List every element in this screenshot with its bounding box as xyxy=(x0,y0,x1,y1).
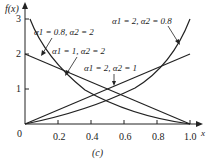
x-tick-label: 0.4 xyxy=(86,131,99,142)
annotation-label: α1 = 0.8, α2 = 2 xyxy=(34,27,94,37)
annotation-arrow xyxy=(168,26,178,42)
x-tick-label: 0.8 xyxy=(152,131,165,142)
y-tick-label: 1 xyxy=(16,83,21,94)
annotation-label: α1 = 1, α2 = 2 xyxy=(52,46,106,56)
panel-label: (c) xyxy=(92,147,104,159)
annotation-label: α1 = 2, α2 = 0.8 xyxy=(112,16,172,26)
x-tick-label: 0.2 xyxy=(53,131,66,142)
y-axis-arrow-icon xyxy=(22,2,28,9)
annotation-arrow xyxy=(67,57,77,73)
y-axis-label: f(x) xyxy=(5,3,20,15)
origin-label: 0 xyxy=(17,128,22,139)
x-tick-label: 0.6 xyxy=(119,131,132,142)
x-axis-label: x xyxy=(200,128,205,138)
y-tick-label: 3 xyxy=(16,13,21,24)
x-axis-arrow-icon xyxy=(196,121,203,127)
y-tick-label: 2 xyxy=(16,48,21,59)
arrow-head-icon xyxy=(41,50,46,56)
beta-density-chart: 0.2 0.4 0.6 0.8 1.0 1 2 3 0 f(x) x (c) α… xyxy=(0,0,210,167)
annotation-label: α1 = 2, α2 = 1 xyxy=(84,63,137,73)
x-tick-label: 1.0 xyxy=(184,131,197,142)
